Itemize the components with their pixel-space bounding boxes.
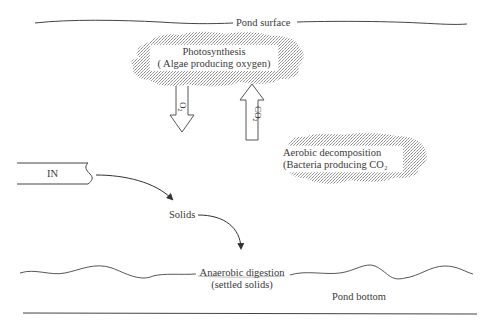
anaerobic-wavy-line-left <box>20 266 196 278</box>
anaerobic-subtitle: (settled solids) <box>196 279 288 291</box>
pond-surface-line-right <box>297 21 467 24</box>
photosynthesis-subtitle: ( Algae producing oxygen) <box>150 58 278 70</box>
co2-arrow-label: CO2 <box>252 106 263 122</box>
pond-surface-label: Pond surface <box>234 17 293 29</box>
pond-bottom-line <box>23 313 477 314</box>
anaerobic-wavy-line-right <box>290 265 473 279</box>
inlet-to-solids-arrow <box>96 175 172 199</box>
pond-surface-line <box>35 20 233 23</box>
solids-label: Solids <box>169 209 195 221</box>
inlet-label: IN <box>47 168 58 180</box>
solids-to-anaerobic-arrow <box>198 215 241 248</box>
aerobic-title: Aerobic decomposition <box>283 147 381 159</box>
anaerobic-title: Anaerobic digestion <box>196 267 288 279</box>
pond-bottom-label: Pond bottom <box>332 291 386 303</box>
aerobic-subtitle: (Bacteria producing CO₂ <box>283 159 388 171</box>
photosynthesis-title: Photosynthesis <box>150 46 278 58</box>
